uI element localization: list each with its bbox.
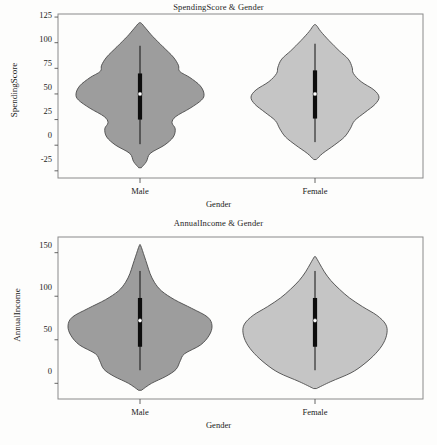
violin-male [68,244,212,390]
figure-page: SpendingScore & Gender SpendingScore 125… [0,0,437,445]
x-axis-title-spending-score: Gender [0,199,437,209]
violin-female [251,25,379,160]
x-axis-title-annual-income: Gender [0,420,437,430]
interquartile-box [138,73,142,119]
violin-male [76,23,204,168]
x-tick-label-male: Male [110,186,170,196]
plot-area-annual-income [0,215,437,415]
plot-area-spending-score [0,0,437,200]
median-marker [313,319,317,323]
median-marker [138,92,142,96]
median-marker [138,319,142,323]
x-tick-label-female: Female [285,407,345,417]
chart-panel-annual-income: AnnualIncome & Gender AnnualIncome 150 1… [0,215,437,445]
x-tick-label-female: Female [285,186,345,196]
chart-panel-spending-score: SpendingScore & Gender SpendingScore 125… [0,0,437,215]
x-tick-label-male: Male [110,407,170,417]
median-marker [313,92,317,96]
violin-female [243,256,387,388]
